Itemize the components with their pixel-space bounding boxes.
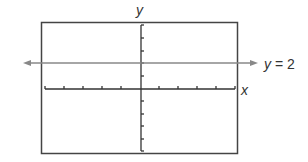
line-equation-label: y = 2 (264, 57, 295, 71)
y-axis-label: y (136, 3, 143, 17)
x-axis (45, 86, 235, 89)
line-equation-variable: y (264, 56, 271, 72)
left-arrow-icon (23, 60, 31, 66)
x-axis-label: x (241, 83, 248, 97)
right-arrow-icon (250, 60, 258, 66)
graph-canvas (0, 0, 308, 162)
y-axis (141, 25, 144, 151)
line-equation-value: = 2 (271, 56, 295, 72)
viewing-window-frame (42, 23, 238, 154)
